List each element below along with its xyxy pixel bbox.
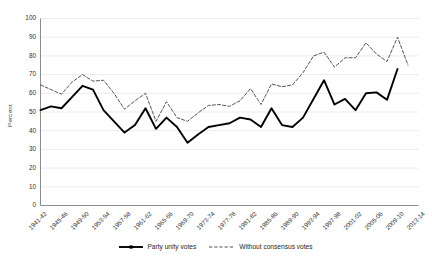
y-tick-label: 100 <box>14 15 36 21</box>
legend-item: Party unity votes <box>119 243 196 251</box>
y-tick-label: 30 <box>14 146 36 152</box>
legend-label: Without consensus votes <box>239 243 312 251</box>
y-axis-title-text: Percent <box>6 96 13 136</box>
y-tick-label: 60 <box>14 90 36 96</box>
line-chart-plot <box>0 0 432 268</box>
gridlines <box>41 19 419 206</box>
y-tick-label: 20 <box>14 165 36 171</box>
legend-solid-line-icon <box>119 243 143 251</box>
y-tick-label: 50 <box>14 109 36 115</box>
y-tick-label: 70 <box>14 71 36 77</box>
legend-dashed-line-icon <box>209 243 235 251</box>
y-tick-label: 80 <box>14 53 36 59</box>
chart-figure: 0102030405060708090100 Percent 1941-4219… <box>0 0 432 268</box>
y-tick-label: 0 <box>14 202 36 208</box>
y-axis-title: Percent <box>2 96 16 136</box>
y-tick-label: 90 <box>14 34 36 40</box>
data-series <box>41 37 409 143</box>
y-tick-label: 40 <box>14 128 36 134</box>
y-tick-label: 10 <box>14 184 36 190</box>
legend-item: Without consensus votes <box>209 243 312 251</box>
chart-legend: Party unity votesWithout consensus votes <box>0 243 432 251</box>
legend-label: Party unity votes <box>147 243 196 251</box>
